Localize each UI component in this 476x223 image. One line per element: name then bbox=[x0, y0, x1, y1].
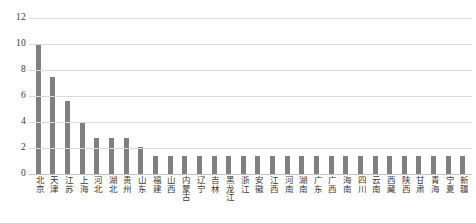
x-axis-tick-label: 上海 bbox=[78, 176, 87, 193]
x-label-slot: 湖北 bbox=[104, 176, 119, 223]
bar bbox=[343, 156, 348, 174]
x-label-slot: 新疆 bbox=[456, 176, 471, 223]
x-axis-tick-label: 安徽 bbox=[254, 176, 263, 193]
x-label-slot: 陕西 bbox=[397, 176, 412, 223]
x-axis-tick-label: 湖北 bbox=[107, 176, 116, 193]
x-axis-tick-label: 新疆 bbox=[459, 176, 468, 193]
x-axis-tick-label: 河南 bbox=[283, 176, 292, 193]
bar bbox=[138, 147, 143, 174]
bar bbox=[329, 156, 334, 174]
bar bbox=[285, 156, 290, 174]
x-label-slot: 宁夏 bbox=[441, 176, 456, 223]
x-label-slot: 安徽 bbox=[251, 176, 266, 223]
x-axis-tick-label: 青海 bbox=[429, 176, 438, 193]
x-label-slot: 广东 bbox=[309, 176, 324, 223]
gridline bbox=[29, 44, 472, 45]
x-label-slot: 黑龙江 bbox=[221, 176, 236, 223]
bar bbox=[314, 156, 319, 174]
bar bbox=[124, 138, 129, 174]
y-axis-tick-label: 12 bbox=[16, 13, 26, 23]
bar bbox=[153, 156, 158, 174]
bar bbox=[212, 156, 217, 174]
x-label-slot: 上海 bbox=[75, 176, 90, 223]
x-axis-tick-label: 海南 bbox=[341, 176, 350, 193]
x-label-slot: 西藏 bbox=[382, 176, 397, 223]
bar bbox=[109, 138, 114, 174]
x-axis-tick-label: 黑龙江 bbox=[224, 176, 233, 202]
bar bbox=[182, 156, 187, 174]
x-axis-tick-label: 山西 bbox=[166, 176, 175, 193]
x-label-slot: 江苏 bbox=[60, 176, 75, 223]
bar bbox=[446, 156, 451, 174]
gridline bbox=[29, 122, 472, 123]
x-axis-tick-label: 内蒙古 bbox=[180, 176, 189, 202]
bar bbox=[460, 156, 465, 174]
gridline bbox=[29, 96, 472, 97]
bar bbox=[241, 156, 246, 174]
x-label-slot: 广西 bbox=[324, 176, 339, 223]
bar bbox=[50, 77, 55, 175]
bar bbox=[36, 44, 41, 174]
x-axis-tick-label: 福建 bbox=[151, 176, 160, 193]
bar bbox=[387, 156, 392, 174]
x-axis-tick-label: 甘肃 bbox=[415, 176, 424, 193]
y-axis-tick-label: 4 bbox=[21, 117, 26, 127]
y-axis-tick-label: 0 bbox=[21, 169, 26, 179]
x-axis-tick-label: 宁夏 bbox=[444, 176, 453, 193]
x-label-slot: 江西 bbox=[265, 176, 280, 223]
bar bbox=[402, 156, 407, 174]
gridline bbox=[29, 148, 472, 149]
x-axis-tick-label: 江西 bbox=[268, 176, 277, 193]
gridline bbox=[29, 18, 472, 19]
x-axis-tick-label: 江苏 bbox=[63, 176, 72, 193]
x-label-slot: 浙江 bbox=[236, 176, 251, 223]
x-axis-tick-label: 辽宁 bbox=[195, 176, 204, 193]
bar bbox=[226, 156, 231, 174]
x-axis-tick-label: 山东 bbox=[136, 176, 145, 193]
x-label-slot: 内蒙古 bbox=[177, 176, 192, 223]
bar bbox=[65, 101, 70, 174]
gridline bbox=[29, 70, 472, 71]
x-label-slot: 北京 bbox=[31, 176, 46, 223]
x-label-slot: 吉林 bbox=[207, 176, 222, 223]
bar bbox=[94, 138, 99, 174]
x-label-slot: 贵州 bbox=[119, 176, 134, 223]
x-label-slot: 福建 bbox=[148, 176, 163, 223]
bar bbox=[197, 156, 202, 174]
x-axis-tick-label: 北京 bbox=[34, 176, 43, 193]
bar bbox=[358, 156, 363, 174]
x-axis-tick-label: 广东 bbox=[312, 176, 321, 193]
x-label-slot: 河南 bbox=[280, 176, 295, 223]
x-axis-tick-label: 吉林 bbox=[210, 176, 219, 193]
bar bbox=[373, 156, 378, 174]
y-axis: 024681012 bbox=[0, 0, 30, 223]
x-axis-labels: 北京天津江苏上海河北湖北贵州山东福建山西内蒙古辽宁吉林黑龙江浙江安徽江西河南湖南… bbox=[29, 176, 472, 223]
x-label-slot: 湖南 bbox=[295, 176, 310, 223]
x-label-slot: 云南 bbox=[368, 176, 383, 223]
x-axis-tick-label: 广西 bbox=[327, 176, 336, 193]
x-axis-tick-label: 浙江 bbox=[239, 176, 248, 193]
x-label-slot: 天津 bbox=[46, 176, 61, 223]
x-label-slot: 甘肃 bbox=[412, 176, 427, 223]
x-axis-tick-label: 湖南 bbox=[298, 176, 307, 193]
x-axis-tick-label: 陕西 bbox=[400, 176, 409, 193]
x-label-slot: 海南 bbox=[338, 176, 353, 223]
x-label-slot: 山东 bbox=[133, 176, 148, 223]
x-label-slot: 青海 bbox=[426, 176, 441, 223]
bar bbox=[299, 156, 304, 174]
y-axis-tick-label: 10 bbox=[16, 39, 26, 49]
x-label-slot: 山西 bbox=[163, 176, 178, 223]
x-axis-tick-label: 天津 bbox=[49, 176, 58, 193]
x-label-slot: 四川 bbox=[353, 176, 368, 223]
x-label-slot: 辽宁 bbox=[192, 176, 207, 223]
x-axis-tick-label: 云南 bbox=[371, 176, 380, 193]
x-axis-tick-label: 西藏 bbox=[385, 176, 394, 193]
bar bbox=[255, 156, 260, 174]
x-label-slot: 河北 bbox=[90, 176, 105, 223]
plot-area bbox=[29, 18, 472, 174]
bar bbox=[168, 156, 173, 174]
axis-baseline bbox=[29, 174, 472, 175]
bar bbox=[270, 156, 275, 174]
y-axis-tick-label: 2 bbox=[21, 143, 26, 153]
y-axis-tick-label: 8 bbox=[21, 65, 26, 75]
